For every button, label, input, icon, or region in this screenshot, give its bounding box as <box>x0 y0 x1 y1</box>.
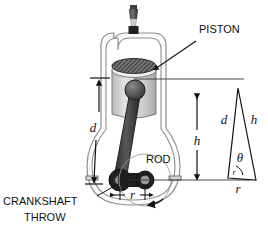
dimension-h-label: h <box>194 133 201 148</box>
bearing-stub-left <box>86 176 98 180</box>
piston-label: PISTON <box>199 23 240 35</box>
triangle-side-h-label: h <box>251 112 258 127</box>
spark-plug <box>129 5 139 34</box>
engine-diagram-svg: d h r PISTON ROD CRANKSHAFT THROW <box>0 0 268 240</box>
spark-plug-terminal <box>130 5 137 9</box>
triangle-arc-r-label: r <box>232 168 236 177</box>
wrist-pin <box>125 80 145 100</box>
triangle-outline <box>228 88 256 180</box>
triangle-base-r-label: r <box>235 181 241 196</box>
triangle-theta-label: θ <box>237 150 244 165</box>
figure-canvas: d h r PISTON ROD CRANKSHAFT THROW <box>0 0 268 240</box>
piston-callout: PISTON <box>155 23 240 69</box>
crankshaft-throw-label-line2: THROW <box>24 211 66 223</box>
spark-plug-insulator <box>131 19 137 26</box>
crankshaft-throw-label-line1: CRANKSHAFT <box>3 195 78 207</box>
spark-plug-base <box>129 26 139 34</box>
theta-arc <box>236 166 243 175</box>
spark-plug-body <box>129 9 138 19</box>
piston-crown-top <box>112 59 156 74</box>
dimension-d-label: d <box>90 120 97 135</box>
triangle-side-d-label: d <box>221 112 228 127</box>
rod-label: ROD <box>146 153 171 165</box>
dimension-h: h <box>194 97 201 178</box>
